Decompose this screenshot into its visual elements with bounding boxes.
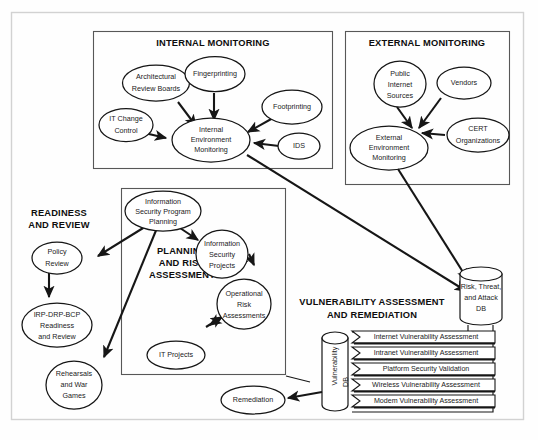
node-label: IRP-DRP-BCP bbox=[34, 310, 81, 319]
node-label: IDS bbox=[293, 141, 305, 150]
vulnerability-title-line2: AND REMEDIATION bbox=[327, 310, 417, 320]
node-fingerprinting[interactable]: Fingerprinting bbox=[185, 57, 245, 92]
assessment-bar-3[interactable]: Platform Security Validation bbox=[352, 363, 495, 376]
assessment-label: Modem Vulnerability Assessment bbox=[374, 397, 478, 405]
node-label: Assessments bbox=[223, 311, 266, 320]
readiness-title-line1: READINESS bbox=[31, 208, 87, 218]
node-label: Policy bbox=[47, 247, 67, 256]
arrow-ispp-to-policy-review bbox=[98, 225, 148, 256]
node-architectural-review-boards[interactable]: Architectural Review Boards bbox=[123, 65, 190, 101]
node-label: Footprinting bbox=[273, 102, 311, 111]
node-operational-risk-assessments[interactable]: Operational Risk Assessments bbox=[217, 279, 271, 329]
db-label: DB bbox=[476, 304, 486, 313]
node-label: Internet bbox=[388, 80, 412, 89]
vulnerability-title-line1: VULNERABILITY ASSESSMENT bbox=[299, 297, 444, 307]
assessment-label: Intranet Vulnerability Assessment bbox=[374, 349, 479, 357]
node-label: Security Program bbox=[135, 207, 191, 216]
arrow-isprojects-to-ora bbox=[249, 254, 254, 265]
node-information-security-projects[interactable]: Information Security Projects bbox=[196, 230, 248, 278]
node-label: Planning bbox=[149, 217, 177, 226]
node-label: IT Change bbox=[109, 114, 142, 123]
node-internal-environment-monitoring[interactable]: Internal Environment Monitoring bbox=[172, 118, 250, 162]
assessment-label: Internet Vulnerability Assessment bbox=[374, 333, 479, 341]
node-public-internet-sources[interactable]: Public Internet Sources bbox=[374, 61, 426, 107]
node-label: and Review bbox=[38, 332, 76, 341]
node-label: Internal bbox=[199, 125, 223, 134]
maintenance-model-diagram: INTERNAL MONITORING Architectural Review… bbox=[0, 0, 538, 440]
node-label: Environment bbox=[191, 135, 231, 144]
external-monitoring-title: EXTERNAL MONITORING bbox=[369, 38, 486, 48]
readiness-title-line2: AND REVIEW bbox=[28, 220, 89, 230]
node-irp-drp-bcp-readiness-and-review[interactable]: IRP-DRP-BCP Readiness and Review bbox=[22, 303, 92, 347]
node-label: Risk bbox=[237, 300, 251, 309]
node-label: Public bbox=[390, 69, 410, 78]
node-label: Games bbox=[62, 391, 86, 400]
node-policy-review[interactable]: Policy Review bbox=[32, 242, 82, 274]
node-label: Monitoring bbox=[194, 145, 228, 154]
node-label: Control bbox=[114, 126, 138, 135]
arrow-cert-to-eem bbox=[422, 133, 445, 135]
node-label: Architectural bbox=[136, 72, 176, 81]
node-label: Vendors bbox=[451, 78, 478, 87]
db-label: Vulnerability bbox=[330, 346, 339, 385]
node-label: Fingerprinting bbox=[193, 69, 237, 78]
assessment-label: Wireless Vulnerability Assessment bbox=[372, 381, 480, 389]
node-label: Organizations bbox=[456, 136, 501, 145]
node-label: Review bbox=[45, 259, 69, 268]
assessment-label: Platform Security Validation bbox=[383, 365, 470, 373]
node-label: External bbox=[376, 133, 403, 142]
node-label: Rehearsals bbox=[56, 369, 93, 378]
node-ids[interactable]: IDS bbox=[278, 133, 320, 159]
internal-monitoring-title: INTERNAL MONITORING bbox=[156, 38, 269, 48]
assessment-bar-5[interactable]: Modem Vulnerability Assessment bbox=[352, 395, 495, 408]
vulnerability-db[interactable]: Vulnerability DB bbox=[322, 332, 350, 411]
node-information-security-program-planning[interactable]: Information Security Program Planning bbox=[125, 191, 201, 231]
node-label: Remediation bbox=[233, 395, 273, 404]
assessment-bar-4[interactable]: Wireless Vulnerability Assessment bbox=[352, 379, 495, 392]
node-label: Security bbox=[209, 250, 235, 259]
arrow-footprinting-to-iem bbox=[248, 118, 273, 132]
node-footprinting[interactable]: Footprinting bbox=[262, 90, 322, 124]
risk-threat-attack-db[interactable]: Risk, Threat, and Attack DB bbox=[460, 267, 502, 325]
node-label: Review Boards bbox=[132, 84, 181, 93]
node-label: Information bbox=[204, 239, 240, 248]
node-vendors[interactable]: Vendors bbox=[437, 67, 491, 99]
node-label: Environment bbox=[369, 143, 409, 152]
node-label: Information bbox=[145, 197, 181, 206]
db-label: DB bbox=[341, 377, 350, 387]
node-external-environment-monitoring[interactable]: External Environment Monitoring bbox=[350, 126, 428, 170]
connector-planning-to-vulndb bbox=[286, 376, 310, 382]
arrow-vendors-to-eem bbox=[419, 98, 441, 128]
node-cert-organizations[interactable]: CERT Organizations bbox=[447, 118, 509, 152]
db-label: Risk, Threat, bbox=[461, 282, 502, 291]
node-rehearsals-and-war-games[interactable]: Rehearsals and War Games bbox=[46, 361, 102, 409]
assessment-bar-1[interactable]: Internet Vulnerability Assessment bbox=[352, 331, 495, 344]
node-remediation[interactable]: Remediation bbox=[221, 386, 285, 414]
node-label: IT Projects bbox=[159, 350, 194, 359]
arrow-vulndb-to-remediation bbox=[288, 392, 322, 398]
node-label: Projects bbox=[209, 261, 235, 270]
db-label: and Attack bbox=[464, 293, 498, 302]
node-it-change-control[interactable]: IT Change Control bbox=[99, 109, 153, 142]
node-label: CERT bbox=[468, 124, 488, 133]
assessment-bar-2[interactable]: Intranet Vulnerability Assessment bbox=[352, 347, 495, 360]
node-label: and War bbox=[61, 380, 89, 389]
node-label: Monitoring bbox=[372, 153, 406, 162]
arrow-itprojects-to-ora bbox=[206, 317, 222, 327]
arrow-public-to-eem bbox=[397, 107, 412, 128]
figure-canvas: INTERNAL MONITORING Architectural Review… bbox=[0, 0, 538, 440]
node-label: Sources bbox=[387, 91, 414, 100]
node-label: Operational bbox=[225, 289, 263, 298]
arrow-eem-to-risk-db bbox=[398, 169, 468, 280]
arrow-ids-to-iem bbox=[254, 143, 279, 146]
node-it-projects[interactable]: IT Projects bbox=[147, 341, 205, 369]
node-label: Readiness bbox=[40, 321, 74, 330]
